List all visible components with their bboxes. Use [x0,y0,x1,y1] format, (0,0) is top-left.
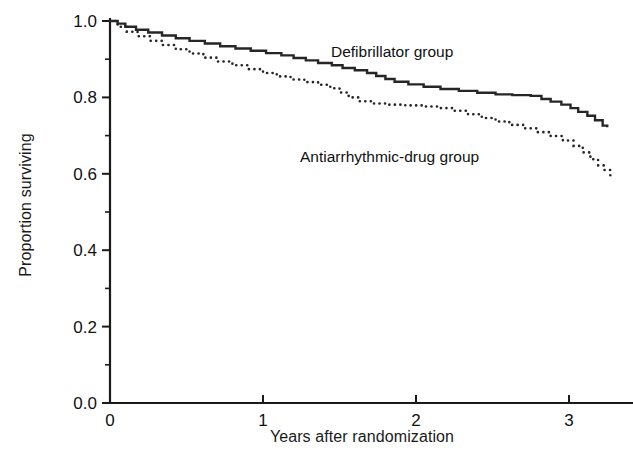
y-tick-label: 0.0 [73,394,97,413]
antiarrhythmic-drug-group-annotation: Antiarrhythmic-drug group [300,148,479,166]
defibrillator-curve [110,21,607,127]
x-tick-label: 3 [564,411,573,430]
y-tick-label: 1.0 [73,12,97,31]
y-axis-title: Proportion surviving [17,95,35,315]
y-axis-tick-labels: 0.00.20.40.60.81.0 [73,12,97,413]
x-tick-label: 0 [105,411,114,430]
y-tick-label: 0.4 [73,241,97,260]
survival-curve-figure: 0.00.20.40.60.81.0 0123 Proportion survi… [0,0,633,456]
y-axis-ticks [102,21,110,403]
y-tick-label: 0.2 [73,318,97,337]
x-axis-title: Years after randomization [222,428,502,446]
y-tick-label: 0.6 [73,165,97,184]
kaplan-meier-plot: 0.00.20.40.60.81.0 0123 [0,0,633,456]
defibrillator-group-annotation: Defibrillator group [331,43,453,61]
x-axis-ticks [263,395,569,403]
axis-lines [110,18,633,403]
y-tick-label: 0.8 [73,88,97,107]
